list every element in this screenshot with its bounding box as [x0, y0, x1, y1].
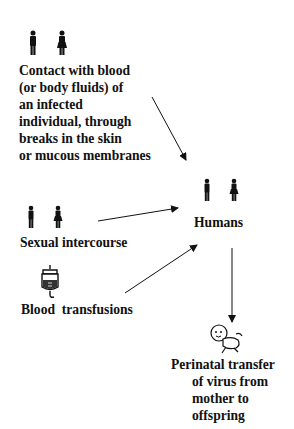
humans-label: Humans — [194, 214, 243, 231]
man-woman-icon — [203, 178, 239, 206]
perinatal-label: Perinatal transfer of virus from mother … — [171, 356, 275, 424]
blood-transfusions-label: Blood transfusions — [21, 301, 133, 318]
arrow-contact-to-humans — [152, 97, 186, 160]
sexual-intercourse-label: Sexual intercourse — [20, 234, 127, 251]
baby-icon — [208, 322, 244, 358]
man-woman-icon — [28, 30, 68, 60]
arrow-blood-to-humans — [125, 245, 197, 293]
arrow-sexual-to-humans — [98, 208, 178, 221]
contact-label: Contact with blood (or body fluids) of a… — [19, 62, 151, 164]
man-woman-icon — [27, 205, 63, 233]
blood-bag-icon — [39, 265, 63, 303]
